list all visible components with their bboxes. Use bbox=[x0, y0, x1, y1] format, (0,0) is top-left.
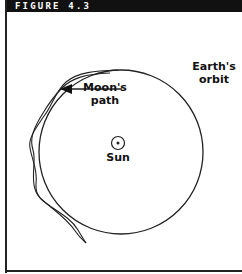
earth-orbit-label-line1: Earth's bbox=[190, 60, 238, 73]
moon-path-label: Moon's path bbox=[80, 81, 130, 107]
moon-path-label-line1: Moon's bbox=[80, 81, 130, 94]
moon-path-label-line2: path bbox=[80, 94, 130, 107]
orbit-diagram bbox=[0, 0, 242, 274]
earth-orbit-label-line2: orbit bbox=[190, 73, 238, 86]
sun-symbol-icon bbox=[112, 137, 125, 150]
arrow-left-icon bbox=[60, 84, 72, 94]
sun-label: Sun bbox=[100, 151, 136, 164]
earth-orbit-label: Earth's orbit bbox=[190, 60, 238, 86]
